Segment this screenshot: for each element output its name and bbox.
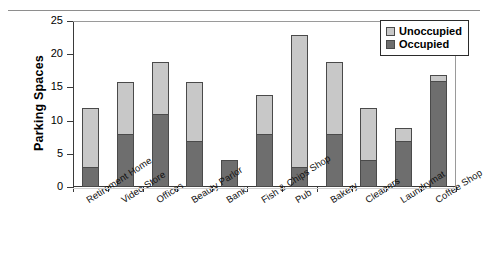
- bar-retirement-home[interactable]: [82, 108, 99, 187]
- bar-segment-unoccupied: [82, 108, 99, 168]
- legend-item-unoccupied[interactable]: Unoccupied: [386, 25, 462, 37]
- x-axis-label-pub: Pub: [293, 187, 313, 206]
- bar-segment-occupied: [186, 141, 203, 187]
- bar-segment-unoccupied: [256, 95, 273, 135]
- bar-bakery[interactable]: [326, 62, 343, 187]
- y-tick-10: 10: [67, 121, 73, 122]
- bar-segment-occupied: [82, 167, 99, 187]
- figure-top-rule: [8, 10, 480, 11]
- bar-segment-unoccupied: [291, 35, 308, 168]
- y-axis-title: Parking Spaces: [32, 28, 46, 178]
- y-tick-label-25: 25: [51, 14, 63, 26]
- y-tick-label-0: 0: [57, 180, 63, 192]
- baseline-shadow-rule: [73, 188, 456, 189]
- y-tick-label-20: 20: [51, 47, 63, 59]
- legend-swatch-icon: [386, 27, 395, 36]
- y-axis-line: [73, 21, 74, 187]
- y-tick-5: 5: [67, 154, 73, 155]
- bar-beauty-parlor[interactable]: [186, 82, 203, 187]
- y-tick-25: 25: [67, 21, 73, 22]
- bar-cleaners[interactable]: [360, 108, 377, 187]
- bar-segment-occupied: [256, 134, 273, 187]
- legend-swatch-icon: [386, 40, 395, 49]
- y-tick-label-10: 10: [51, 114, 63, 126]
- chart-legend: UnoccupiedOccupied: [380, 20, 469, 56]
- bar-segment-unoccupied: [186, 82, 203, 142]
- y-tick-label-5: 5: [57, 147, 63, 159]
- bar-segment-unoccupied: [117, 82, 134, 135]
- legend-label: Occupied: [399, 38, 449, 50]
- bar-pub[interactable]: [291, 35, 308, 187]
- bar-segment-unoccupied: [395, 128, 412, 141]
- legend-item-occupied[interactable]: Occupied: [386, 38, 462, 50]
- y-tick-label-15: 15: [51, 80, 63, 92]
- parking-spaces-stacked-bar-chart: Parking Spaces 0510152025 Retirement Hom…: [0, 0, 488, 270]
- bar-segment-unoccupied: [326, 62, 343, 135]
- bar-segment-occupied: [360, 160, 377, 187]
- y-tick-20: 20: [67, 54, 73, 55]
- bar-segment-unoccupied: [360, 108, 377, 161]
- y-tick-15: 15: [67, 87, 73, 88]
- bar-fish-chips-shop[interactable]: [256, 95, 273, 187]
- bar-segment-unoccupied: [152, 62, 169, 115]
- legend-label: Unoccupied: [399, 25, 462, 37]
